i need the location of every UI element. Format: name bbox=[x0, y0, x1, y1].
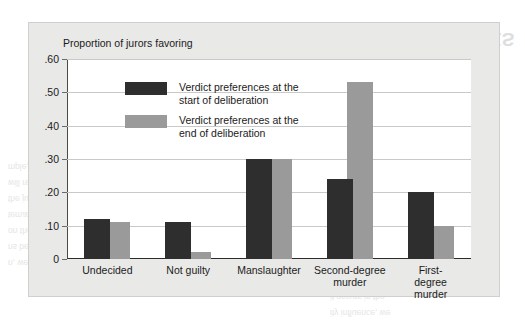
chart-legend: Verdict preferences at the start of deli… bbox=[125, 81, 299, 147]
x-tick-label: Undecided bbox=[82, 264, 132, 276]
ghost-body-line: ity influence, we bbox=[330, 308, 390, 318]
legend-swatch-start-icon bbox=[125, 82, 167, 95]
bar-group bbox=[309, 59, 390, 259]
legend-item: Verdict preferences at the start of deli… bbox=[125, 81, 299, 106]
x-tick-label: Manslaughter bbox=[237, 264, 301, 276]
figure-panel: Proportion of jurors favoring .60.50.40.… bbox=[28, 22, 500, 297]
legend-item: Verdict preferences at the end of delibe… bbox=[125, 114, 299, 139]
bar-start-of-deliberation bbox=[84, 219, 110, 259]
bar-group bbox=[390, 59, 471, 259]
plot-wrapper: .60.50.40.30.20.100 UndecidedNot guiltyM… bbox=[67, 59, 471, 259]
legend-label: Verdict preferences at the end of delibe… bbox=[179, 114, 299, 139]
x-tick-label: First-degree murder bbox=[410, 264, 450, 300]
x-tick-label: Second-degree murder bbox=[314, 264, 386, 288]
y-tick-label: .40 bbox=[44, 120, 59, 132]
bar-start-of-deliberation bbox=[165, 222, 191, 259]
legend-label: Verdict preferences at the start of deli… bbox=[179, 81, 299, 106]
y-tick-label: .60 bbox=[44, 53, 59, 65]
y-tick-label: .20 bbox=[44, 186, 59, 198]
y-tick-mark bbox=[62, 259, 67, 260]
y-tick-label: .10 bbox=[44, 220, 59, 232]
y-axis-title: Proportion of jurors favoring bbox=[63, 37, 193, 49]
bar-start-of-deliberation bbox=[246, 159, 272, 259]
bar-start-of-deliberation bbox=[408, 192, 434, 259]
legend-swatch-end-icon bbox=[125, 115, 167, 128]
x-tick-label: Not guilty bbox=[166, 264, 210, 276]
y-tick-label: 0 bbox=[53, 253, 59, 265]
y-tick-label: .50 bbox=[44, 86, 59, 98]
y-tick-label: .30 bbox=[44, 153, 59, 165]
bar-start-of-deliberation bbox=[327, 179, 353, 259]
